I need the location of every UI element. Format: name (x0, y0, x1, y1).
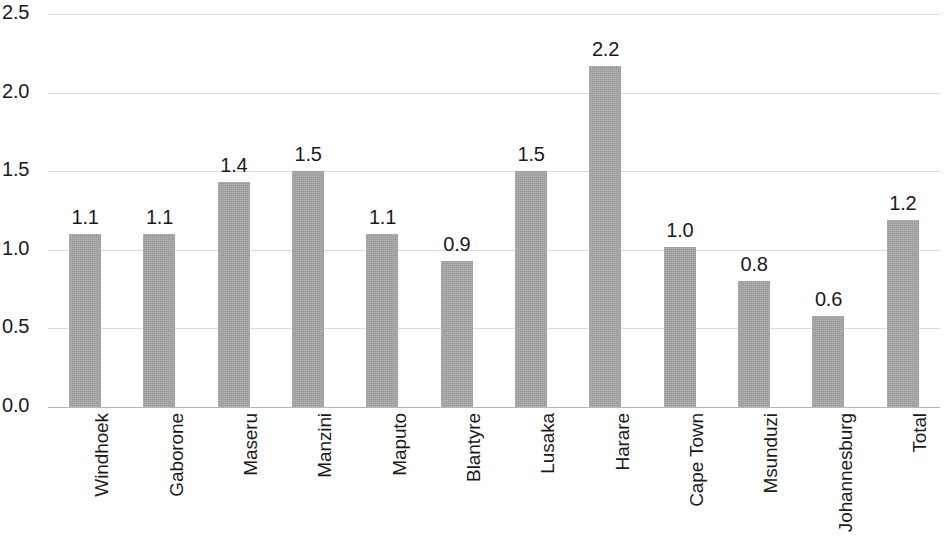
x-axis-tick-label: Gaborone (167, 413, 186, 497)
bar[interactable] (292, 171, 324, 407)
bar[interactable] (218, 182, 250, 407)
bar-slot: 1.1 (345, 14, 419, 407)
bar-value-label: 1.1 (72, 206, 99, 229)
y-axis-tick-label: 0.0 (2, 394, 42, 417)
bar-slot: 0.9 (420, 14, 494, 407)
bar[interactable] (589, 66, 621, 407)
bar[interactable] (812, 316, 844, 407)
y-axis-tick-label: 2.5 (2, 1, 42, 24)
x-axis-tick-label: Blantyre (464, 413, 483, 482)
bar[interactable] (69, 234, 101, 407)
y-axis-tick-label: 1.0 (2, 237, 42, 260)
bar-value-label: 1.0 (666, 219, 693, 242)
bar-slot: 0.8 (717, 14, 791, 407)
bar-slot: 1.2 (866, 14, 940, 407)
bar-value-label: 1.1 (369, 206, 396, 229)
x-axis-tick-label: Cape Town (687, 413, 706, 507)
y-axis-tick-label: 1.5 (2, 158, 42, 181)
x-axis-tick-label: Johannesburg (836, 413, 855, 532)
bar-value-label: 1.1 (146, 206, 173, 229)
bar[interactable] (738, 281, 770, 407)
bar-slot: 0.6 (791, 14, 865, 407)
x-axis-tick-label: Harare (613, 413, 632, 470)
plot-area: 1.11.11.41.51.10.91.52.21.00.80.61.2 (48, 14, 940, 407)
x-axis-tick-label: Total (910, 413, 929, 453)
bar[interactable] (887, 220, 919, 407)
x-axis-tick-label: Maseru (241, 413, 260, 476)
bar[interactable] (664, 247, 696, 407)
x-axis-tick-label: Manzini (315, 413, 334, 478)
bar-value-label: 2.2 (592, 38, 619, 61)
y-axis-tick-label: 0.5 (2, 315, 42, 338)
bar[interactable] (441, 261, 473, 407)
bar[interactable] (515, 171, 547, 407)
bar[interactable] (366, 234, 398, 407)
bar-value-label: 0.6 (815, 288, 842, 311)
bar-value-label: 1.4 (220, 154, 247, 177)
bar-slot: 1.1 (122, 14, 196, 407)
y-axis-tick-label: 2.0 (2, 80, 42, 103)
x-axis-tick-label: Windhoek (92, 413, 111, 497)
bar-slot: 1.1 (48, 14, 122, 407)
bar[interactable] (143, 234, 175, 407)
bar-slot: 2.2 (568, 14, 642, 407)
x-axis-tick-label: Msunduzi (761, 413, 780, 494)
bar-slot: 1.0 (643, 14, 717, 407)
gridline (48, 407, 940, 408)
x-axis-tick-label: Lusaka (538, 413, 557, 474)
bar-value-label: 0.8 (741, 253, 768, 276)
x-axis-tick-label: Maputo (390, 413, 409, 476)
bar-value-label: 1.5 (295, 143, 322, 166)
bar-chart: 0.00.51.01.52.02.5 1.11.11.41.51.10.91.5… (0, 0, 945, 548)
bar-slot: 1.5 (271, 14, 345, 407)
bar-value-label: 1.2 (889, 192, 916, 215)
bar-slot: 1.4 (197, 14, 271, 407)
bar-slot: 1.5 (494, 14, 568, 407)
bar-value-label: 0.9 (443, 233, 470, 256)
bar-value-label: 1.5 (518, 143, 545, 166)
